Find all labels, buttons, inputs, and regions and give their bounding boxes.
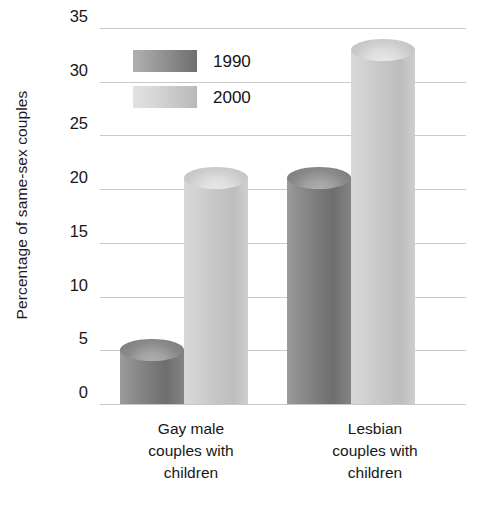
bar-1990-1 <box>287 167 351 404</box>
legend-label: 1990 <box>213 53 251 70</box>
bar-1990-0 <box>120 339 184 404</box>
bar-top-ellipse <box>351 39 415 61</box>
gridline <box>100 404 466 405</box>
y-axis-tick-labels: 05101520253035 <box>0 28 96 404</box>
legend-item-1990: 1990 <box>133 47 251 75</box>
category-label-line: couples with <box>290 440 460 462</box>
category-label-1: Lesbiancouples withchildren <box>290 418 460 484</box>
legend-swatch-1990 <box>133 50 197 72</box>
bar-body <box>351 50 415 405</box>
category-label-line: children <box>106 462 276 484</box>
legend: 19902000 <box>133 47 251 119</box>
y-axis-tick-label: 25 <box>8 115 88 132</box>
y-axis-tick-label: 15 <box>8 223 88 240</box>
legend-item-2000: 2000 <box>133 83 251 111</box>
y-axis-tick-label: 35 <box>8 8 88 25</box>
category-label-0: Gay malecouples withchildren <box>106 418 276 484</box>
bar-chart: Percentage of same-sex couples 051015202… <box>0 0 480 508</box>
bar-body <box>287 178 351 404</box>
bar-2000-1 <box>351 39 415 405</box>
legend-swatch-2000 <box>133 86 197 108</box>
y-axis-tick-label: 30 <box>8 62 88 79</box>
y-axis-tick-label: 20 <box>8 169 88 186</box>
category-label-line: children <box>290 462 460 484</box>
bar-body <box>184 178 248 404</box>
category-label-line: couples with <box>106 440 276 462</box>
gridline <box>100 28 466 29</box>
y-axis-tick-label: 10 <box>8 277 88 294</box>
category-label-line: Lesbian <box>290 418 460 440</box>
bar-2000-0 <box>184 167 248 404</box>
category-label-line: Gay male <box>106 418 276 440</box>
x-axis-category-labels: Gay malecouples withchildren Lesbiancoup… <box>100 418 466 504</box>
y-axis-tick-label: 5 <box>8 330 88 347</box>
y-axis-tick-label: 0 <box>8 384 88 401</box>
legend-label: 2000 <box>213 89 251 106</box>
